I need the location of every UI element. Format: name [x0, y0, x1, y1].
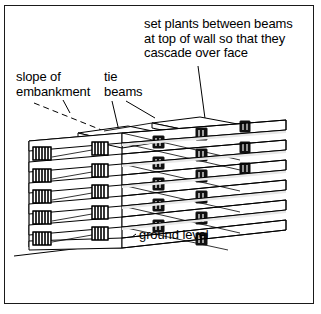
annotation-slope-line1: slope of [16, 69, 61, 84]
annotation-slope-line2: embankment [16, 84, 90, 99]
annotation-ground-level: ground level [139, 228, 209, 243]
annotation-ground-line1: ground level [139, 227, 209, 242]
annotation-tie-line1: tie [104, 69, 117, 84]
leader-line-slope [34, 100, 104, 131]
annotation-plants-line1: set plants between beams [144, 16, 293, 31]
annotation-tie-beams: tie beams [104, 70, 143, 99]
annotation-plants-line3: cascade over face [144, 45, 248, 60]
annotation-slope-of-embankment: slope of embankment [16, 70, 90, 99]
annotation-plants-line2: at top of wall so that they [144, 31, 285, 46]
annotation-tie-line2: beams [104, 84, 143, 99]
figure-page: set plants between beams at top of wall … [0, 0, 321, 314]
annotation-plants: set plants between beams at top of wall … [144, 17, 293, 61]
